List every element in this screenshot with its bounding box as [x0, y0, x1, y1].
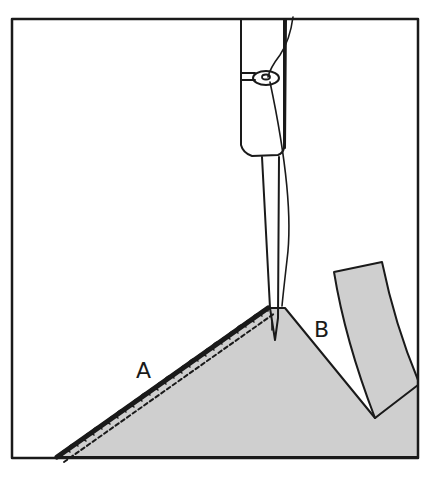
thread [268, 17, 293, 306]
needle-clamp [241, 19, 286, 156]
label-b: B [314, 317, 329, 342]
thread-guide [241, 71, 279, 85]
label-a: A [136, 358, 151, 383]
sewing-diagram: A B [0, 0, 433, 482]
